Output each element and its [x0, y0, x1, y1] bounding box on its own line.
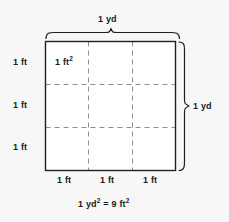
cell-area-label: 1 ft2 [55, 57, 73, 67]
figure-canvas [0, 0, 229, 222]
bottom-column-label-3: 1 ft [143, 175, 157, 185]
bottom-column-label-1: 1 ft [57, 175, 71, 185]
top-dimension-label: 1 yd [98, 14, 117, 24]
left-row-label-1: 1 ft [13, 57, 27, 67]
cell-area-value: 1 ft [55, 57, 69, 67]
top-brace [46, 29, 180, 39]
unit-conversion-figure: 1 yd 1 yd 1 ft 1 ft 1 ft 1 ft 1 ft 1 ft … [0, 0, 229, 222]
bottom-column-label-2: 1 ft [100, 175, 114, 185]
equation-right-exponent: 2 [126, 197, 130, 204]
left-row-label-3: 1 ft [13, 142, 27, 152]
right-brace [179, 42, 189, 171]
equation-caption: 1 yd2 = 9 ft2 [78, 199, 130, 209]
equation-right-value: 9 ft [112, 199, 126, 209]
right-dimension-label: 1 yd [193, 101, 212, 111]
equation-left-value: 1 yd [78, 199, 97, 209]
cell-area-exponent: 2 [69, 55, 73, 62]
left-row-label-2: 1 ft [13, 100, 27, 110]
